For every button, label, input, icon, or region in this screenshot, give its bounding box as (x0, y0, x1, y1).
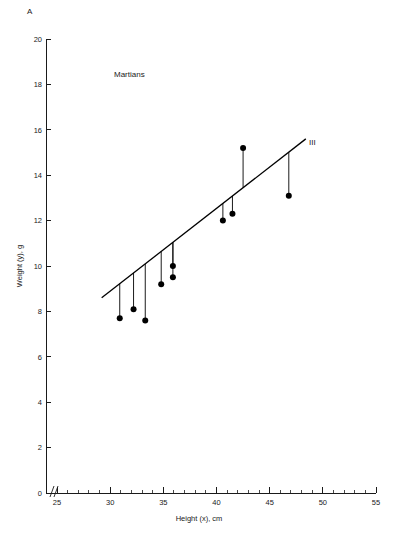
data-point-marker (117, 315, 123, 321)
y-tick-label: 20 (34, 35, 42, 44)
data-point-marker (286, 193, 292, 199)
group-label: Martians (114, 70, 145, 79)
regression-line-path (102, 139, 306, 298)
x-axis-title: Height (x), cm (176, 514, 223, 523)
y-tick-label: 18 (34, 80, 42, 89)
y-tick-label: 12 (34, 216, 42, 225)
x-tick-label: 35 (159, 498, 167, 507)
data-point-marker (158, 281, 164, 287)
axes (46, 39, 376, 497)
x-tick-label: 30 (106, 498, 114, 507)
y-axis-ticks: 02468101214161820 (34, 35, 51, 498)
data-point-marker (229, 211, 235, 217)
y-tick-label: 8 (38, 307, 42, 316)
x-tick-label: 55 (372, 498, 380, 507)
y-tick-label: 16 (34, 126, 42, 135)
y-axis-title: Weight (y), g (15, 245, 24, 287)
y-tick-label: 14 (34, 171, 42, 180)
data-point-marker (240, 145, 246, 151)
figure-panel: 25303540455055 02468101214161820 A Marti… (0, 0, 398, 535)
x-axis-ticks: 25303540455055 (53, 487, 380, 507)
x-tick-label: 25 (53, 498, 61, 507)
y-tick-label: 10 (34, 262, 42, 271)
axis-lines (46, 39, 376, 493)
y-tick-label: 6 (38, 353, 42, 362)
y-tick-label: 2 (38, 443, 42, 452)
data-point-marker (142, 317, 148, 323)
panel-letter: A (27, 7, 33, 16)
regression-line (102, 139, 306, 298)
residual-lines (120, 148, 289, 321)
x-tick-label: 45 (265, 498, 273, 507)
data-point-marker (170, 274, 176, 280)
x-tick-label: 50 (319, 498, 327, 507)
data-point-marker (220, 218, 226, 224)
y-tick-label: 4 (38, 398, 42, 407)
data-point-marker (131, 306, 137, 312)
scatter-plot: 25303540455055 02468101214161820 A Marti… (0, 0, 398, 535)
regression-line-label: III (309, 138, 316, 147)
data-point-marker (170, 263, 176, 269)
y-tick-label: 0 (38, 489, 42, 498)
x-tick-label: 40 (212, 498, 220, 507)
data-points (117, 145, 292, 324)
